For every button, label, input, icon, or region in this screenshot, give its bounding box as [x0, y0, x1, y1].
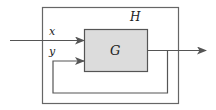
label-h: H — [129, 10, 141, 24]
label-y: y — [48, 45, 56, 58]
block-diagram: H G x y — [0, 0, 216, 110]
label-x: x — [49, 25, 56, 38]
label-g: G — [110, 43, 120, 58]
